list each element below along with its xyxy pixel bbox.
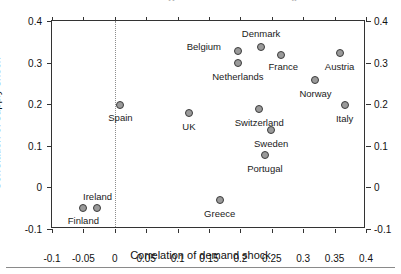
- x-tick: [209, 229, 210, 233]
- data-point[interactable]: [216, 196, 224, 204]
- y-tick: [366, 104, 371, 105]
- data-point-label: Greece: [204, 209, 235, 219]
- y-tick: [366, 146, 371, 147]
- x-axis-label: Correlation of demand shock: [0, 249, 401, 261]
- x-tick: [335, 17, 336, 21]
- data-point[interactable]: [79, 204, 87, 212]
- y-tick-label: 0: [374, 182, 401, 193]
- data-point-label: Switzerland: [235, 118, 284, 128]
- y-tick-label: 0.1: [2, 140, 42, 151]
- x-tick: [272, 17, 273, 21]
- x-tick: [240, 229, 241, 233]
- data-point-label: Ireland: [83, 192, 112, 202]
- y-tick: [366, 63, 371, 64]
- y-tick-label: 0.3: [374, 57, 401, 68]
- title-remnant-left: p: [168, 0, 175, 1]
- x-tick: [52, 17, 53, 21]
- y-tick-label: -0.1: [2, 224, 42, 235]
- x-tick: [303, 17, 304, 21]
- data-point[interactable]: [261, 151, 269, 159]
- data-point[interactable]: [116, 101, 124, 109]
- y-tick-label: 0.2: [374, 99, 401, 110]
- y-tick: [47, 146, 52, 147]
- y-tick: [47, 63, 52, 64]
- data-point[interactable]: [234, 59, 242, 67]
- x-tick: [178, 17, 179, 21]
- x-tick: [115, 17, 116, 21]
- scatter-figure: p y -0.1-0.0500.050.10.150.20.250.30.350…: [0, 0, 401, 274]
- y-tick-label: 0.1: [374, 140, 401, 151]
- x-tick: [146, 229, 147, 233]
- data-point-label: Norway: [299, 89, 331, 99]
- data-point[interactable]: [185, 109, 193, 117]
- x-tick: [240, 17, 241, 21]
- y-tick: [47, 229, 52, 230]
- data-point-label: UK: [182, 122, 195, 132]
- y-tick: [47, 21, 52, 22]
- y-tick-label: 0.4: [2, 16, 42, 27]
- data-point[interactable]: [341, 101, 349, 109]
- plot-area: -0.1-0.0500.050.10.150.20.250.30.350.4-0…: [51, 20, 365, 228]
- data-point-label: Finland: [68, 216, 99, 226]
- data-point[interactable]: [93, 204, 101, 212]
- x-tick: [209, 17, 210, 21]
- x-tick: [272, 229, 273, 233]
- y-tick: [366, 229, 371, 230]
- y-tick-label: 0.2: [2, 99, 42, 110]
- x-tick: [335, 229, 336, 233]
- x-tick: [178, 229, 179, 233]
- data-point[interactable]: [255, 105, 263, 113]
- data-point[interactable]: [336, 49, 344, 57]
- data-point-label: Netherlands: [212, 72, 263, 82]
- data-point-label: Portugal: [247, 164, 282, 174]
- x-tick: [83, 17, 84, 21]
- data-point-label: Italy: [336, 114, 353, 124]
- y-tick: [366, 21, 371, 22]
- data-point-label: Austria: [325, 62, 355, 72]
- x-tick: [83, 229, 84, 233]
- data-point-label: Sweden: [254, 139, 288, 149]
- x-tick: [303, 229, 304, 233]
- data-point[interactable]: [257, 43, 265, 51]
- data-point[interactable]: [234, 47, 242, 55]
- data-point[interactable]: [311, 76, 319, 84]
- y-tick-label: 0: [2, 182, 42, 193]
- data-point[interactable]: [267, 126, 275, 134]
- x-tick: [115, 229, 116, 233]
- data-point-label: Belgium: [187, 42, 221, 52]
- data-point-label: France: [268, 62, 298, 72]
- y-axis-label: Correlation of supply shock: [0, 58, 2, 191]
- data-point-label: Spain: [108, 113, 132, 123]
- data-point[interactable]: [277, 51, 285, 59]
- y-tick-label: 0.3: [2, 57, 42, 68]
- title-remnant-right: y: [291, 0, 297, 1]
- zero-reference-line: [115, 21, 116, 227]
- x-tick: [52, 229, 53, 233]
- y-tick-label: 0.4: [374, 16, 401, 27]
- y-tick: [47, 187, 52, 188]
- data-point-label: Denmark: [242, 29, 281, 39]
- y-tick: [47, 104, 52, 105]
- x-tick: [146, 17, 147, 21]
- bottom-divider: [6, 267, 395, 268]
- y-tick-label: -0.1: [374, 224, 401, 235]
- y-tick: [366, 187, 371, 188]
